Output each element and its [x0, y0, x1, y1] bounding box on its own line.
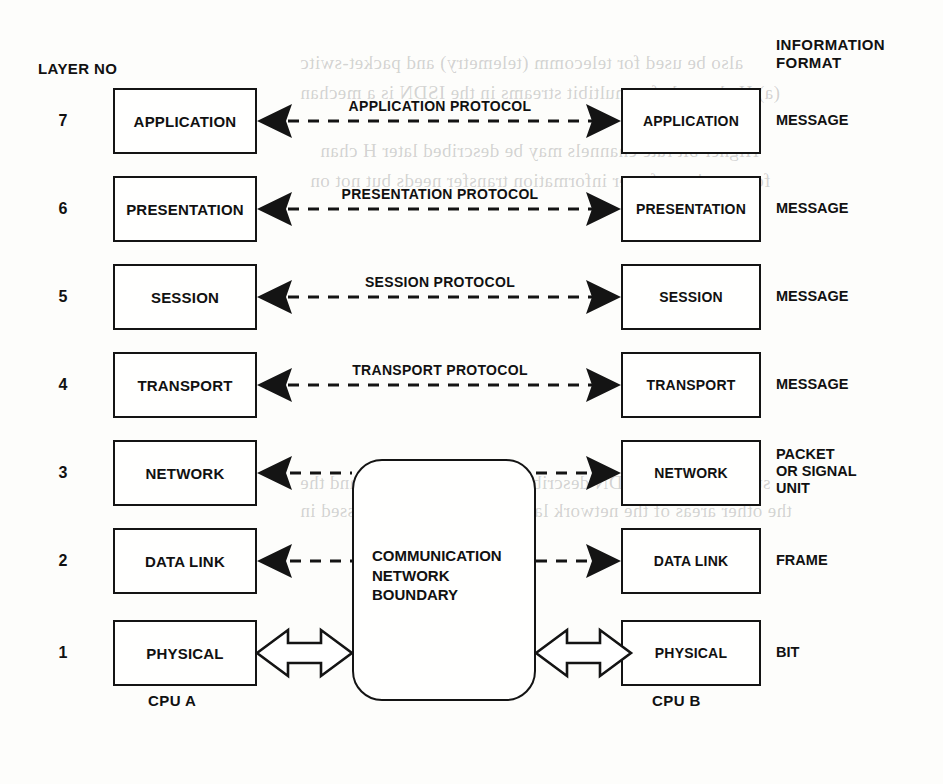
layer-box-right-data-link[interactable]: DATA LINK	[621, 528, 761, 594]
layer-number-5: 5	[52, 288, 74, 306]
layer-box-left-physical[interactable]: PHYSICAL	[113, 620, 257, 686]
layer-number-4: 4	[52, 376, 74, 394]
layer-number-2: 2	[52, 552, 74, 570]
layer-box-left-transport[interactable]: TRANSPORT	[113, 352, 257, 418]
layer-box-right-application[interactable]: APPLICATION	[621, 88, 761, 154]
layer-box-label: APPLICATION	[643, 113, 739, 129]
layer-box-label: PRESENTATION	[636, 201, 746, 217]
layer-box-right-presentation[interactable]: PRESENTATION	[621, 176, 761, 242]
layer-box-right-physical[interactable]: PHYSICAL	[621, 620, 761, 686]
layer-box-left-application[interactable]: APPLICATION	[113, 88, 257, 154]
information-format-network: PACKET OR SIGNAL UNIT	[776, 446, 857, 497]
information-format-session: MESSAGE	[776, 288, 849, 305]
layer-box-label: APPLICATION	[134, 113, 237, 130]
information-format-application: MESSAGE	[776, 112, 849, 129]
layer-number-3: 3	[52, 464, 74, 482]
protocol-label-presentation: PRESENTATION PROTOCOL	[310, 186, 570, 202]
information-format-header: INFORMATION FORMAT	[776, 36, 885, 71]
layer-box-label: TRANSPORT	[647, 377, 736, 393]
layer-box-label: TRANSPORT	[137, 377, 232, 394]
protocol-label-application: APPLICATION PROTOCOL	[320, 98, 560, 114]
layer-box-label: DATA LINK	[145, 553, 225, 570]
information-format-transport: MESSAGE	[776, 376, 849, 393]
bleed-through-text: also be used for telecomm (telemetry) an…	[300, 52, 743, 74]
layer-box-left-session[interactable]: SESSION	[113, 264, 257, 330]
layer-number-7: 7	[52, 112, 74, 130]
layer-number-1: 1	[52, 644, 74, 662]
layer-box-left-presentation[interactable]: PRESENTATION	[113, 176, 257, 242]
layer-box-right-transport[interactable]: TRANSPORT	[621, 352, 761, 418]
layer-box-left-data-link[interactable]: DATA LINK	[113, 528, 257, 594]
layer-box-label: SESSION	[151, 289, 219, 306]
physical-connector-left	[257, 630, 352, 676]
layer-box-label: PHYSICAL	[655, 645, 727, 661]
cpu-b-label: CPU B	[652, 692, 701, 709]
protocol-label-transport: TRANSPORT PROTOCOL	[320, 362, 560, 378]
layer-box-left-network[interactable]: NETWORK	[113, 440, 257, 506]
cpu-a-label: CPU A	[148, 692, 196, 709]
layer-box-label: SESSION	[659, 289, 723, 305]
layer-box-right-network[interactable]: NETWORK	[621, 440, 761, 506]
information-format-presentation: MESSAGE	[776, 200, 849, 217]
communication-network-boundary-label: COMMUNICATION NETWORK BOUNDARY	[372, 546, 502, 605]
layer-box-label: DATA LINK	[654, 553, 729, 569]
osi-layer-diagram: also be used for telecomm (telemetry) an…	[0, 0, 943, 784]
layer-no-header: LAYER NO	[38, 60, 117, 78]
layer-box-right-session[interactable]: SESSION	[621, 264, 761, 330]
layer-box-label: PHYSICAL	[146, 645, 223, 662]
information-format-physical: BIT	[776, 644, 799, 661]
layer-number-6: 6	[52, 200, 74, 218]
layer-box-label: NETWORK	[654, 465, 728, 481]
layer-box-label: NETWORK	[146, 465, 225, 482]
layer-box-label: PRESENTATION	[126, 201, 244, 218]
protocol-label-session: SESSION PROTOCOL	[330, 274, 550, 290]
physical-connector-right	[536, 630, 631, 676]
information-format-data-link: FRAME	[776, 552, 828, 569]
